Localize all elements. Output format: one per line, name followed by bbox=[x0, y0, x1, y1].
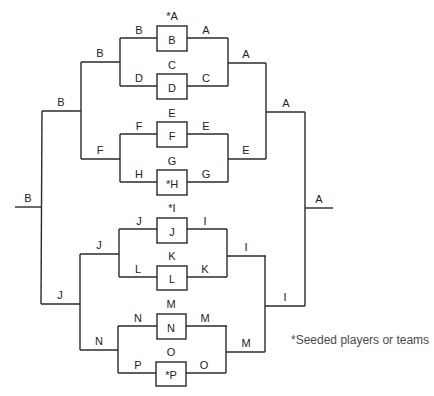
right-finalist-label: A bbox=[315, 193, 323, 205]
right-round2-label-4: M bbox=[241, 337, 250, 349]
match-4-right-label: G bbox=[202, 168, 211, 180]
left-round2-label-4: N bbox=[95, 335, 103, 347]
left-round3-label-2: J bbox=[57, 289, 63, 301]
match-8-right-label: O bbox=[200, 359, 209, 371]
match-5-bottom: J bbox=[169, 226, 175, 238]
match-6-left-label: L bbox=[135, 263, 141, 275]
match-5-left-label: J bbox=[136, 215, 142, 227]
match-6: K L L K bbox=[119, 250, 227, 290]
match-1-top-seed: *A bbox=[166, 10, 178, 22]
match-1-right-label: A bbox=[202, 24, 210, 36]
match-8: O *P P O bbox=[118, 346, 226, 386]
match-4-bottom-seed: *H bbox=[166, 178, 178, 190]
match-1-left-label: B bbox=[135, 24, 142, 36]
left-finalist-label: B bbox=[24, 192, 31, 204]
left-round2-label-1: B bbox=[96, 47, 103, 59]
match-2-left-label: D bbox=[135, 72, 143, 84]
match-7: M N N M bbox=[118, 298, 227, 339]
match-3: E F F E bbox=[120, 107, 228, 147]
match-3-left-label: F bbox=[136, 120, 143, 132]
left-round3-label-1: B bbox=[57, 96, 64, 108]
match-8-left-label: P bbox=[134, 359, 141, 371]
right-bracket: A E I M A I A bbox=[226, 38, 333, 373]
match-3-top: E bbox=[168, 107, 175, 119]
match-6-bottom: L bbox=[169, 273, 175, 285]
left-round2-label-3: J bbox=[96, 239, 102, 251]
match-4: G *H H G bbox=[120, 155, 228, 195]
match-7-left-label: N bbox=[134, 312, 142, 324]
match-4-left-label: H bbox=[135, 168, 143, 180]
match-7-right-label: M bbox=[200, 312, 209, 324]
right-round2-label-1: A bbox=[242, 48, 250, 60]
match-6-right-label: K bbox=[201, 263, 209, 275]
right-round3-label-2: I bbox=[283, 291, 286, 303]
seeded-footnote: *Seeded players or teams bbox=[291, 333, 429, 347]
match-8-top: O bbox=[167, 346, 176, 358]
match-1: *A B B A bbox=[120, 10, 228, 51]
match-2-top: C bbox=[168, 59, 176, 71]
right-round3-label-1: A bbox=[282, 97, 290, 109]
match-6-top: K bbox=[168, 250, 176, 262]
match-4-top: G bbox=[168, 155, 177, 167]
right-round2-label-2: E bbox=[242, 144, 249, 156]
right-round2-label-3: I bbox=[244, 241, 247, 253]
match-7-bottom: N bbox=[167, 322, 175, 334]
match-2-bottom: D bbox=[168, 82, 176, 94]
match-2: C D D C bbox=[120, 59, 228, 99]
match-5-top-seed: *I bbox=[168, 202, 175, 214]
match-5-right-label: I bbox=[203, 215, 206, 227]
match-3-right-label: E bbox=[202, 120, 209, 132]
left-bracket: B F J N B J B bbox=[15, 38, 120, 373]
left-round2-label-2: F bbox=[97, 144, 104, 156]
match-7-top: M bbox=[166, 298, 175, 310]
match-3-bottom: F bbox=[169, 130, 176, 142]
match-2-right-label: C bbox=[202, 72, 210, 84]
match-5: *I J J I bbox=[119, 202, 227, 243]
match-1-bottom: B bbox=[168, 34, 175, 46]
match-8-bottom-seed: *P bbox=[165, 369, 177, 381]
